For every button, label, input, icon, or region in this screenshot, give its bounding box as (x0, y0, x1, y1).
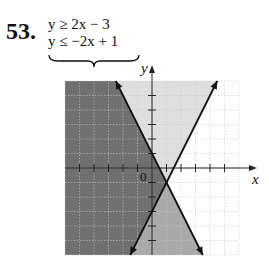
origin-label: 0 (140, 169, 147, 184)
x-axis-label: x (251, 171, 259, 187)
y-axis-label: y (139, 60, 148, 76)
inequality-graph: xy0 (0, 0, 269, 272)
y-axis-arrow-icon (149, 65, 155, 73)
